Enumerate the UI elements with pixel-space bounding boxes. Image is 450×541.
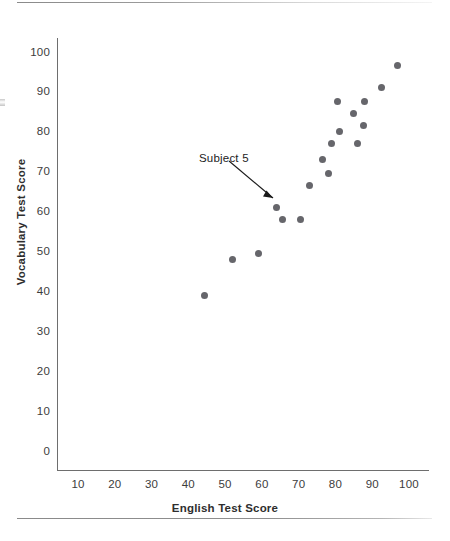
- x-tick-label: 70: [279, 479, 319, 490]
- x-tick-label: 80: [315, 479, 355, 490]
- y-tick-label: 90: [10, 86, 50, 97]
- data-point: [306, 182, 313, 189]
- data-point: [201, 292, 208, 299]
- y-axis-title: Vocabulary Test Score: [15, 122, 27, 322]
- bottom-divider-rule: [17, 518, 432, 519]
- y-tick-label-text: 90: [10, 86, 50, 97]
- data-point: [336, 128, 343, 135]
- data-point: [328, 140, 335, 147]
- data-point: [350, 110, 357, 117]
- y-tick-label-text: 100: [10, 47, 50, 58]
- x-tick-label: 90: [352, 479, 392, 490]
- data-point: [361, 98, 368, 105]
- x-tick-label: 100: [389, 479, 429, 490]
- x-axis-line: [57, 470, 429, 471]
- y-tick-label-text: 0: [10, 446, 50, 457]
- y-tick-label-text: 10: [10, 406, 50, 417]
- data-point: [394, 62, 401, 69]
- y-tick-label-text: 20: [10, 366, 50, 377]
- annotation-arrow-icon: [228, 160, 282, 206]
- data-point: [325, 170, 332, 177]
- y-tick-label-text: 30: [10, 326, 50, 337]
- data-point: [378, 84, 385, 91]
- y-tick-label: 100: [10, 47, 50, 58]
- y-tick-label: 30: [10, 326, 50, 337]
- y-tick-label: 0: [10, 446, 50, 457]
- scatter-plot: 0102030405060708090100 10203040506070809…: [0, 0, 450, 541]
- data-point: [297, 216, 304, 223]
- y-tick-label: 20: [10, 366, 50, 377]
- x-axis-title: English Test Score: [0, 502, 450, 514]
- data-point: [279, 216, 286, 223]
- x-tick-label: 20: [95, 479, 135, 490]
- data-point: [319, 156, 326, 163]
- data-point: [360, 122, 367, 129]
- data-point: [334, 98, 341, 105]
- x-tick-label: 10: [58, 479, 98, 490]
- data-point: [255, 250, 262, 257]
- data-point: [229, 256, 236, 263]
- x-tick-label: 60: [242, 479, 282, 490]
- x-tick-label: 50: [205, 479, 245, 490]
- x-tick-label: 30: [132, 479, 172, 490]
- x-tick-label: 40: [168, 479, 208, 490]
- data-point: [354, 140, 361, 147]
- y-axis-line: [57, 38, 58, 471]
- y-tick-label: 10: [10, 406, 50, 417]
